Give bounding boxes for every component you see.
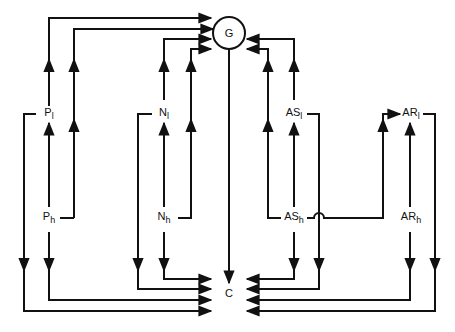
edge-ash-c <box>247 232 294 279</box>
edge-asl-c <box>247 114 319 289</box>
edge-nh-c <box>164 232 211 279</box>
edge-ash-arl <box>307 114 400 218</box>
node-ar-h: ARh <box>400 210 422 226</box>
node-n-h: Nh <box>157 210 172 226</box>
node-ar-l: ARl <box>401 106 420 122</box>
node-as-h: ASh <box>283 210 305 226</box>
node-n-l: Nl <box>158 106 170 122</box>
node-g: G <box>225 27 234 39</box>
node-p-l: Pl <box>43 106 54 122</box>
edge-ph-g <box>74 29 213 218</box>
edge-nh-g <box>178 49 211 218</box>
diagram-canvas <box>0 0 455 332</box>
edge-ash-g <box>247 49 281 218</box>
edge-nl-c <box>138 114 211 289</box>
node-p-h: Ph <box>42 210 56 226</box>
node-c: C <box>225 287 233 299</box>
node-as-l: ASl <box>285 106 304 122</box>
